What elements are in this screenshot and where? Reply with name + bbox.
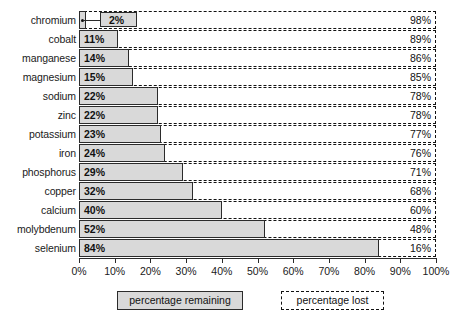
lost-value-potassium: 77% — [410, 129, 431, 140]
chart-legend: percentage remaining percentage lost — [0, 291, 453, 313]
category-label-potassium: potassium — [29, 129, 76, 140]
bar-value-magnesium: 15% — [84, 72, 105, 83]
category-label-iron: iron — [59, 148, 76, 159]
bar-molybdenum[interactable] — [79, 220, 265, 238]
x-tick-40pct — [222, 258, 223, 263]
x-tick-label-10pct: 10% — [104, 265, 125, 277]
category-label-molybdenum: molybdenum — [17, 224, 76, 235]
bar-value-selenium: 84% — [84, 243, 105, 254]
category-label-zinc: zinc — [58, 110, 76, 121]
lost-region-row — [79, 30, 436, 48]
x-tick-label-0pct: 0% — [71, 265, 86, 277]
category-label-cobalt: cobalt — [49, 34, 76, 45]
horizontal-bar-chart: chromiumcobaltmanganesemagnesiumsodiumzi… — [0, 0, 453, 322]
category-label-sodium: sodium — [43, 91, 76, 102]
lost-value-selenium: 16% — [410, 243, 431, 254]
bar-value-calcium: 40% — [84, 205, 105, 216]
bar-value-manganese: 14% — [84, 53, 105, 64]
category-label-manganese: manganese — [22, 53, 76, 64]
lost-region-row — [79, 49, 436, 67]
lost-value-chromium: 98% — [410, 15, 431, 26]
category-label-calcium: calcium — [41, 205, 76, 216]
legend-item-percentage-remaining[interactable]: percentage remaining — [117, 291, 243, 310]
x-tick-label-50pct: 50% — [247, 265, 268, 277]
lost-value-iron: 76% — [410, 148, 431, 159]
x-tick-10pct — [115, 258, 116, 263]
lost-value-sodium: 78% — [410, 91, 431, 102]
x-tick-label-20pct: 20% — [140, 265, 161, 277]
category-label-copper: copper — [44, 186, 76, 197]
category-label-chromium: chromium — [31, 15, 76, 26]
plot-area: 2%98%11%89%14%86%15%85%22%78%22%78%23%77… — [79, 11, 436, 258]
category-label-magnesium: magnesium — [23, 72, 76, 83]
lost-value-calcium: 60% — [410, 205, 431, 216]
x-tick-60pct — [293, 258, 294, 263]
bar-value-zinc: 22% — [84, 110, 105, 121]
bar-value-molybdenum: 52% — [84, 224, 105, 235]
x-tick-80pct — [365, 258, 366, 263]
lost-value-cobalt: 89% — [410, 34, 431, 45]
lost-value-zinc: 78% — [410, 110, 431, 121]
x-tick-50pct — [258, 258, 259, 263]
x-tick-label-70pct: 70% — [318, 265, 339, 277]
lost-region-row — [79, 68, 436, 86]
legend-item-percentage-lost[interactable]: percentage lost — [281, 291, 384, 310]
x-tick-label-80pct: 80% — [354, 265, 375, 277]
x-tick-0pct — [79, 258, 80, 263]
bar-value-phosphorus: 29% — [84, 167, 105, 178]
x-tick-label-30pct: 30% — [176, 265, 197, 277]
category-label-phosphorus: phosphorus — [22, 167, 76, 178]
bar-selenium[interactable] — [79, 239, 379, 257]
bar-value-potassium: 23% — [84, 129, 105, 140]
bar-value-cobalt: 11% — [84, 34, 104, 45]
x-tick-label-100pct: 100% — [423, 265, 450, 277]
lost-value-manganese: 86% — [410, 53, 431, 64]
x-tick-label-90pct: 90% — [390, 265, 411, 277]
bar-value-sodium: 22% — [84, 91, 105, 102]
callout-leader-line-chromium — [83, 20, 100, 21]
x-tick-30pct — [186, 258, 187, 263]
bar-value-iron: 24% — [84, 148, 105, 159]
x-tick-90pct — [400, 258, 401, 263]
bar-value-chromium: 2% — [109, 15, 124, 26]
lost-value-magnesium: 85% — [410, 72, 431, 83]
x-tick-70pct — [329, 258, 330, 263]
bar-value-copper: 32% — [84, 186, 105, 197]
category-label-selenium: selenium — [35, 243, 76, 254]
x-tick-20pct — [150, 258, 151, 263]
x-tick-label-40pct: 40% — [211, 265, 232, 277]
x-tick-100pct — [436, 258, 437, 263]
lost-value-phosphorus: 71% — [410, 167, 431, 178]
x-tick-label-60pct: 60% — [283, 265, 304, 277]
lost-value-copper: 68% — [410, 186, 431, 197]
lost-value-molybdenum: 48% — [410, 224, 431, 235]
